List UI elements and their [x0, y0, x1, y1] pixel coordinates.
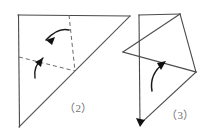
figure2-fold-arrow-upper	[46, 29, 69, 45]
figure3-vertical-edge	[139, 15, 140, 124]
figure3-right-edge	[180, 14, 196, 72]
figure3-diagonal-long	[123, 14, 180, 52]
figure2-top-edge	[18, 15, 130, 16]
figure2-dashed-horizontal	[19, 57, 75, 71]
figure3-top-edge	[139, 14, 180, 15]
figure3-fold-arrow-main	[152, 61, 167, 91]
figure2-left-edge	[19, 15, 20, 127]
figure3-diagonal-cross	[123, 52, 196, 72]
figure3-bottom-arrowhead	[136, 118, 145, 127]
figure2-dashed-vertical	[69, 15, 75, 71]
figure-2-label: （2）	[64, 99, 93, 115]
figure-3-label: （3）	[166, 106, 195, 122]
